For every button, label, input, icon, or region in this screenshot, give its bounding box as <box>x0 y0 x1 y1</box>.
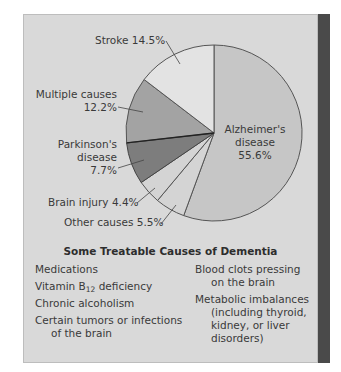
item-metabolic-cont3: disorders) <box>195 332 315 345</box>
item-metabolic: Metabolic imbalances <box>195 293 309 305</box>
item-medications: Medications <box>35 263 98 275</box>
label-alzheimers: Alzheimer's disease 55.6% <box>220 123 290 162</box>
label-brain-injury: Brain injury 4.4% <box>48 196 139 209</box>
label-parkinsons-line1: Parkinson's <box>40 138 117 151</box>
item-metabolic-cont2: kidney, or liver <box>195 319 315 332</box>
label-alzheimers-line1: Alzheimer's <box>220 123 290 136</box>
treatable-list-left: Medications Vitamin B12 deficiency Chron… <box>35 263 185 344</box>
label-multiple-line1: Multiple causes <box>33 88 117 101</box>
label-stroke: Stroke 14.5% <box>95 34 165 47</box>
item-blood-clots: Blood clots pressing <box>195 263 300 275</box>
item-vitamin-b12: Vitamin B <box>35 280 86 292</box>
label-other-causes: Other causes 5.5% <box>64 216 163 229</box>
item-vitamin-b12-suffix: deficiency <box>95 280 152 292</box>
label-alzheimers-line2: disease <box>220 136 290 149</box>
label-parkinsons-line2: disease <box>40 151 117 164</box>
item-metabolic-cont1: (including thyroid, <box>195 306 315 319</box>
label-multiple-causes: Multiple causes 12.2% <box>33 88 117 114</box>
list-item: Metabolic imbalances(including thyroid,k… <box>195 293 315 345</box>
treatable-list-right: Blood clots pressingon the brain Metabol… <box>195 263 315 349</box>
label-alzheimers-line3: 55.6% <box>220 149 290 162</box>
list-item: Blood clots pressingon the brain <box>195 263 315 289</box>
list-item: Chronic alcoholism <box>35 297 185 310</box>
label-parkinsons: Parkinson's disease 7.7% <box>40 138 117 177</box>
list-item: Medications <box>35 263 185 276</box>
list-item: Vitamin B12 deficiency <box>35 280 185 293</box>
item-tumors: Certain tumors or infections <box>35 314 182 326</box>
item-chronic-alcoholism: Chronic alcoholism <box>35 297 134 309</box>
label-multiple-line2: 12.2% <box>33 101 117 114</box>
list-item: Certain tumors or infectionsof the brain <box>35 314 185 340</box>
label-parkinsons-line3: 7.7% <box>40 164 117 177</box>
subscript: 12 <box>86 285 96 294</box>
item-blood-clots-cont: on the brain <box>195 276 315 289</box>
item-tumors-cont: of the brain <box>35 327 185 340</box>
treatable-causes-title: Some Treatable Causes of Dementia <box>23 245 318 257</box>
